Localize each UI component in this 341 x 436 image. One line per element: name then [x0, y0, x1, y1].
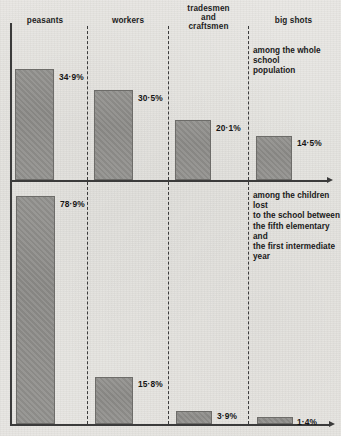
bar-top-tradesmen-craftsmen — [175, 120, 211, 180]
column-divider-3-bottom — [248, 182, 249, 424]
bar-value-bottom-big-shots: 1·4% — [297, 417, 317, 427]
baseline-bottom-panel — [10, 424, 330, 426]
baseline-bottom-panel-arrowhead — [329, 421, 335, 427]
baseline-top-panel — [10, 180, 328, 182]
column-header-peasants-line1: peasants — [6, 16, 84, 25]
column-header-tradesmen-line3: craftsmen — [171, 22, 246, 31]
series-caption-children-lost: among the children lost to the school be… — [253, 191, 341, 262]
bar-bottom-peasants — [16, 196, 55, 424]
column-header-peasants: peasants — [6, 16, 84, 25]
left-axis-top-panel — [10, 23, 12, 181]
bar-top-peasants — [15, 69, 54, 180]
column-divider-1-bottom — [87, 182, 88, 424]
left-axis-bottom-panel — [10, 181, 12, 425]
bar-value-bottom-peasants: 78·9% — [60, 199, 85, 209]
bar-chart: peasants workers tradesmen and craftsmen… — [0, 0, 341, 436]
column-header-bigshots-line1: big shots — [251, 16, 336, 25]
column-divider-2-bottom — [168, 182, 169, 424]
bar-bottom-big-shots — [257, 417, 293, 424]
bar-top-workers — [94, 90, 133, 180]
bar-bottom-workers — [95, 377, 133, 424]
column-divider-1-top — [87, 26, 88, 180]
column-header-workers-line1: workers — [90, 16, 166, 25]
series-caption-whole-school-population: among the whole school population — [253, 46, 339, 77]
column-divider-3-top — [248, 26, 249, 180]
bar-value-top-big-shots: 14·5% — [297, 138, 322, 148]
bar-value-top-peasants: 34·9% — [59, 72, 84, 82]
column-header-big-shots: big shots — [251, 16, 336, 25]
column-header-tradesmen-craftsmen: tradesmen and craftsmen — [171, 4, 246, 32]
column-header-tradesmen-line2: and — [171, 13, 246, 22]
baseline-top-panel-arrowhead — [327, 177, 333, 183]
column-header-tradesmen-line1: tradesmen — [171, 4, 246, 13]
bar-value-bottom-workers: 15·8% — [138, 379, 163, 389]
column-divider-2-top — [168, 26, 169, 180]
bar-value-top-tradesmen-craftsmen: 20·1% — [216, 123, 241, 133]
column-header-workers: workers — [90, 16, 166, 25]
bar-top-big-shots — [256, 136, 292, 180]
bar-value-bottom-tradesmen-craftsmen: 3·9% — [217, 411, 237, 421]
bar-value-top-workers: 30·5% — [138, 93, 163, 103]
bar-bottom-tradesmen-craftsmen — [176, 411, 212, 424]
